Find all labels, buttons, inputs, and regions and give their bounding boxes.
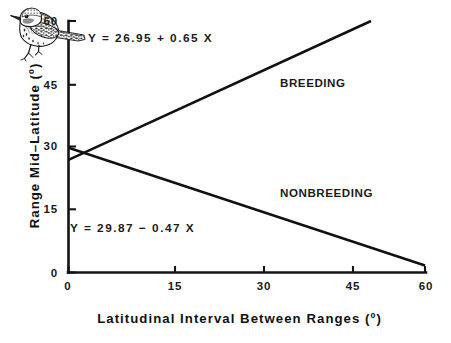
regression-line-nonbreeding — [69, 148, 426, 266]
scatter-regression-figure: 60 45 30 15 0 0 15 30 45 60 Range Mid–La… — [0, 0, 451, 343]
x-axis-title: Latitudinal Interval Between Ranges (º) — [0, 311, 451, 326]
equation-breeding: Y = 26.95 + 0.65 X — [88, 31, 213, 45]
x-tick-label-15: 15 — [168, 280, 183, 292]
y-tick-label-0: 0 — [26, 267, 58, 279]
x-tick-label-45: 45 — [346, 280, 361, 292]
y-axis-title: Range Mid–Latitude (º) — [27, 26, 42, 266]
equation-nonbreeding: Y = 29.87 − 0.47 X — [70, 221, 195, 235]
x-tick-label-30: 30 — [257, 280, 272, 292]
series-label-nonbreeding: NONBREEDING — [280, 186, 373, 199]
x-tick-label-0: 0 — [64, 280, 71, 292]
x-tick-label-60: 60 — [419, 280, 434, 292]
series-label-breeding: BREEDING — [280, 76, 346, 89]
